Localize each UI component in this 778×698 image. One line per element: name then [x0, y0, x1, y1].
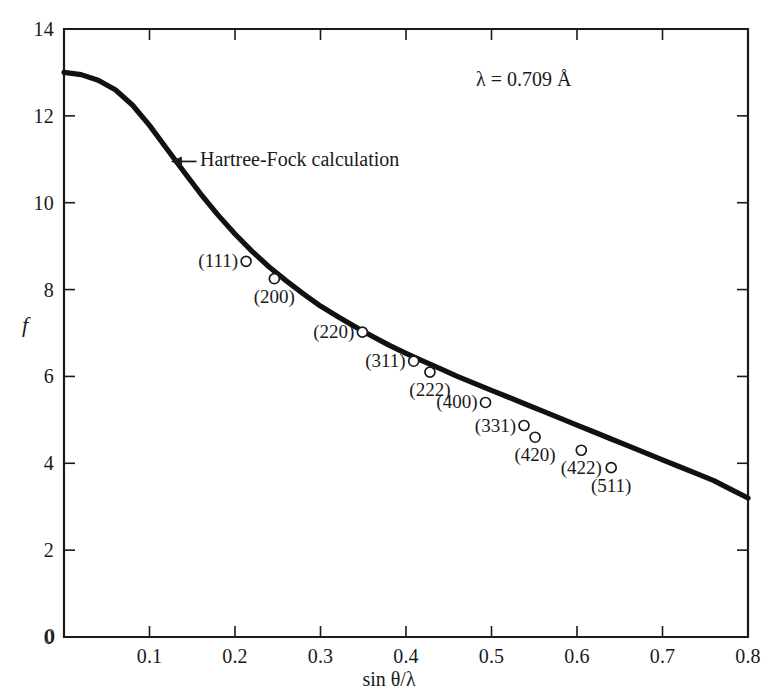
- x-tick-label: 0.8: [735, 645, 761, 668]
- point-label-111: (111): [198, 250, 238, 272]
- hartree-fock-curve: [64, 72, 748, 498]
- x-tick-label: 0.2: [222, 645, 248, 668]
- data-point-420[interactable]: [530, 432, 540, 442]
- axis-frame: [64, 29, 748, 637]
- x-tick-label: 0.3: [308, 645, 334, 668]
- y-tick-label: 0: [8, 626, 54, 649]
- point-label-311: (311): [365, 350, 405, 372]
- scattering-factor-figure: f sin θ/λ λ = 0.709 Å Hartree-Fock calcu…: [0, 0, 778, 698]
- data-point-331[interactable]: [519, 421, 529, 431]
- hartree-fock-annotation: Hartree-Fock calculation: [200, 148, 399, 171]
- y-tick-label: 6: [8, 365, 54, 388]
- x-tick-label: 0.1: [137, 645, 163, 668]
- x-tick-label: 0.7: [650, 645, 676, 668]
- x-axis-title: sin θ/λ: [0, 668, 778, 691]
- tick-marks: [64, 29, 748, 637]
- x-tick-label: 0.5: [479, 645, 505, 668]
- x-tick-label: 0.6: [564, 645, 590, 668]
- plot-canvas: [0, 0, 778, 698]
- y-axis-title: f: [22, 312, 28, 338]
- data-point-400[interactable]: [481, 397, 491, 407]
- point-label-220: (220): [313, 321, 354, 343]
- data-point-111[interactable]: [241, 256, 251, 266]
- data-point-222[interactable]: [425, 367, 435, 377]
- data-point-200[interactable]: [269, 274, 279, 284]
- data-point-511[interactable]: [606, 463, 616, 473]
- point-label-400: (400): [436, 391, 477, 413]
- wavelength-annotation: λ = 0.709 Å: [476, 68, 571, 91]
- y-tick-label: 10: [8, 191, 54, 214]
- hartree-fock-line: [64, 72, 748, 498]
- data-point-220[interactable]: [357, 327, 367, 337]
- y-tick-label: 8: [8, 278, 54, 301]
- y-tick-label: 2: [8, 539, 54, 562]
- x-tick-label: 0.4: [393, 645, 419, 668]
- y-tick-label: 12: [8, 104, 54, 127]
- point-label-511: (511): [591, 475, 631, 497]
- y-tick-label: 4: [8, 452, 54, 475]
- data-point-422[interactable]: [576, 445, 586, 455]
- y-tick-label: 14: [8, 18, 54, 41]
- point-label-200: (200): [254, 286, 295, 308]
- point-label-331: (331): [475, 415, 516, 437]
- data-point-311[interactable]: [409, 356, 419, 366]
- point-label-420: (420): [515, 444, 556, 466]
- axis-box: [64, 29, 748, 637]
